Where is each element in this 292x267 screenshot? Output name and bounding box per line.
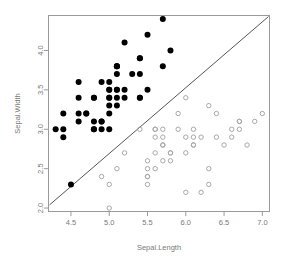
- point-setosa: [106, 95, 112, 101]
- point-setosa: [160, 63, 166, 69]
- point-setosa: [122, 40, 128, 46]
- point-setosa: [114, 63, 120, 69]
- x-tick-label: 6.5: [219, 218, 229, 227]
- y-tick-label: 2.0: [36, 203, 45, 213]
- y-tick-label: 4.0: [36, 45, 45, 55]
- point-setosa: [106, 79, 112, 85]
- point-setosa: [160, 16, 166, 22]
- scatter-plot-figure: 4.55.05.56.06.57.0 2.02.53.03.54.0 Sepal…: [0, 0, 292, 267]
- point-setosa: [99, 126, 105, 132]
- x-tick-label: 5.0: [104, 218, 114, 227]
- point-setosa: [114, 103, 120, 109]
- point-setosa: [137, 55, 143, 61]
- point-setosa: [60, 134, 66, 140]
- point-setosa: [76, 111, 82, 117]
- point-setosa: [145, 32, 151, 38]
- point-setosa: [145, 87, 151, 93]
- y-axis-title: Sepal.Width: [13, 93, 22, 133]
- y-tick-label: 3.0: [36, 124, 45, 134]
- point-setosa: [76, 79, 82, 85]
- point-setosa: [106, 126, 112, 132]
- point-setosa: [137, 71, 143, 77]
- point-setosa: [122, 87, 128, 93]
- point-setosa: [91, 126, 97, 132]
- point-setosa: [53, 126, 59, 132]
- point-setosa: [68, 181, 74, 187]
- x-tick-label: 4.5: [66, 218, 76, 227]
- x-axis-title: Sepal.Length: [137, 243, 181, 252]
- point-setosa: [129, 71, 135, 77]
- point-setosa: [99, 79, 105, 85]
- y-tick-label: 2.5: [36, 163, 45, 173]
- y-tick-label: 3.5: [36, 85, 45, 95]
- point-setosa: [106, 111, 112, 117]
- plot-canvas: 4.55.05.56.06.57.0 2.02.53.03.54.0 Sepal…: [0, 0, 292, 267]
- point-setosa: [106, 103, 112, 109]
- point-setosa: [106, 87, 112, 93]
- x-tick-label: 5.5: [142, 218, 152, 227]
- x-tick-label: 6.0: [181, 218, 191, 227]
- point-setosa: [114, 71, 120, 77]
- point-setosa: [83, 111, 89, 117]
- point-setosa: [137, 95, 143, 101]
- point-setosa: [91, 95, 97, 101]
- point-setosa: [60, 111, 66, 117]
- point-setosa: [76, 118, 82, 124]
- point-setosa: [167, 47, 173, 53]
- point-setosa: [99, 118, 105, 124]
- point-setosa: [114, 95, 120, 101]
- point-setosa: [122, 95, 128, 101]
- point-setosa: [114, 87, 120, 93]
- x-tick-label: 7.0: [257, 218, 267, 227]
- point-setosa: [91, 118, 97, 124]
- point-setosa: [76, 95, 82, 101]
- point-setosa: [60, 126, 66, 132]
